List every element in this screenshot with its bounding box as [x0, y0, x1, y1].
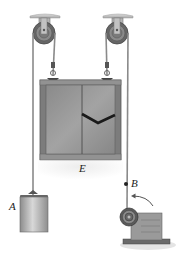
cable-right-to-crate: [106, 33, 107, 75]
ceiling-mount-right-icon: [103, 14, 133, 18]
block-a: [20, 190, 48, 232]
left-ceiling-pulley: [30, 14, 60, 44]
motor-winch: [120, 194, 176, 251]
point-b-marker: [124, 182, 128, 186]
ceiling-mount-left-icon: [30, 14, 60, 18]
label-a: A: [9, 201, 16, 212]
pulley-diagram: [0, 0, 182, 262]
crate-hooks: [47, 62, 113, 80]
label-e: E: [79, 163, 86, 174]
rotation-arrow-icon: [133, 196, 153, 206]
crate-e: [40, 80, 121, 160]
label-b: B: [131, 178, 138, 189]
